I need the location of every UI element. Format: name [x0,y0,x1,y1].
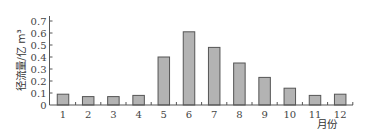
x-axis-title: 月份 [317,118,338,130]
bar-month-3 [108,97,120,105]
y-tick-label: 0.7 [31,16,47,27]
bar-month-9 [259,77,271,105]
x-tick-label: 7 [211,109,217,120]
y-axis-title: 径流量/亿 m³ [15,29,27,90]
x-tick-label: 10 [283,109,296,120]
bar-month-8 [234,63,246,105]
x-tick-label: 4 [135,109,141,120]
y-tick-label: 0.2 [31,76,47,87]
bar-month-6 [183,32,195,105]
y-tick-label: 0 [40,100,46,111]
bar-month-1 [57,94,69,105]
runoff-bar-chart: 00.10.20.30.40.50.60.7 123456789101112 径… [0,0,369,140]
y-tick-label: 0.1 [31,88,47,99]
bar-month-7 [208,47,220,105]
bar-month-5 [158,57,170,105]
x-tick-label: 6 [186,109,192,120]
bar-month-4 [133,95,145,105]
x-tick-label: 8 [236,109,242,120]
x-tick-label: 3 [110,109,116,120]
bar-month-11 [309,95,321,105]
y-tick-label: 0.3 [31,64,47,75]
y-tick-label: 0.5 [31,40,47,51]
bar-month-10 [284,88,296,105]
x-tick-label: 5 [161,109,167,120]
x-tick-label: 9 [261,109,267,120]
bar-month-12 [334,94,346,105]
y-tick-label: 0.4 [31,52,47,63]
bars [57,32,346,105]
y-tick-label: 0.6 [31,28,47,39]
x-tick-label: 1 [60,109,66,120]
bar-month-2 [82,97,94,105]
x-tick-label: 2 [85,109,91,120]
